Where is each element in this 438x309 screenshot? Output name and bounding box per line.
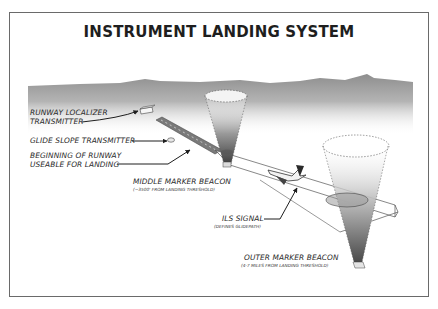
ils-signal-label: ILS SIGNAL	[222, 215, 264, 224]
ils-signal-note: (DEFINES GLIDEPATH)	[214, 225, 261, 230]
runway-begin-label-line2: USEABLE FOR LANDING	[30, 161, 119, 170]
glide-slope-transmitter	[168, 138, 175, 142]
localizer-label-line2: TRANSMITTER	[30, 118, 83, 127]
middle-marker-label: MIDDLE MARKER BEACON	[133, 178, 231, 187]
outer-marker-label: OUTER MARKER BEACON	[244, 254, 339, 263]
outer-marker-note: (4-7 MILES FROM LANDING THRESHOLD)	[241, 264, 328, 269]
glide-slope-label: GLIDE SLOPE TRANSMITTER	[30, 137, 135, 146]
middle-marker-note: (~3500' FROM LANDING THRESHOLD)	[133, 188, 215, 193]
